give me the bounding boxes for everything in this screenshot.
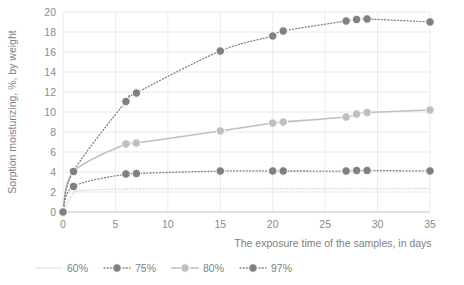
x-tick-label: 0 <box>60 218 66 230</box>
data-point <box>363 166 371 174</box>
x-tick-label: 10 <box>162 218 174 230</box>
data-point <box>122 170 130 178</box>
x-tick-label: 30 <box>372 218 384 230</box>
data-point <box>269 32 277 40</box>
data-point <box>342 17 350 25</box>
chart-container: 02468101214161820 05101520253035 Sorptio… <box>0 0 464 285</box>
legend-label: 80% <box>203 262 224 274</box>
data-point <box>426 18 434 26</box>
y-tick-label: 14 <box>44 66 56 78</box>
legend-item-80pct[interactable]: 80% <box>172 262 224 274</box>
data-point <box>122 140 130 148</box>
legend-label: 97% <box>271 262 292 274</box>
series-line-97pct <box>63 19 430 212</box>
y-tick-label: 16 <box>44 46 56 58</box>
data-point <box>132 169 140 177</box>
data-point <box>132 89 140 97</box>
y-tick-label: 4 <box>50 166 56 178</box>
legend-item-75pct[interactable]: 75% <box>104 262 156 274</box>
x-tick-label: 20 <box>267 218 279 230</box>
x-axis-tick-labels: 05101520253035 <box>60 218 436 230</box>
legend-marker-swatch <box>113 264 121 272</box>
data-point <box>363 15 371 23</box>
x-tick-label: 35 <box>424 218 436 230</box>
data-point <box>426 106 434 114</box>
data-point <box>69 182 77 190</box>
legend-marker-swatch <box>181 264 189 272</box>
y-tick-label: 20 <box>44 6 56 18</box>
x-tick-label: 5 <box>113 218 119 230</box>
data-point <box>132 139 140 147</box>
data-point <box>352 15 360 23</box>
x-tick-label: 15 <box>214 218 226 230</box>
data-point <box>279 167 287 175</box>
legend-item-60pct[interactable]: 60% <box>36 262 88 274</box>
data-point <box>216 127 224 135</box>
series-lines <box>63 19 430 212</box>
data-point <box>363 108 371 116</box>
data-point <box>216 167 224 175</box>
data-point <box>122 97 130 105</box>
data-point <box>216 47 224 55</box>
data-point <box>352 110 360 118</box>
y-tick-label: 12 <box>44 86 56 98</box>
y-tick-label: 10 <box>44 106 56 118</box>
y-axis-title: Sorption moisturizing, %, by weight <box>6 30 18 193</box>
data-point <box>279 118 287 126</box>
data-point <box>269 119 277 127</box>
sorption-moisturizing-chart: 02468101214161820 05101520253035 Sorptio… <box>0 0 464 285</box>
series-line-75pct <box>63 170 430 212</box>
data-point <box>352 166 360 174</box>
data-point <box>426 167 434 175</box>
chart-legend: 60%75%80%97% <box>36 262 292 274</box>
y-tick-label: 18 <box>44 26 56 38</box>
data-point <box>69 167 77 175</box>
series-line-80pct <box>63 110 430 212</box>
data-point <box>342 167 350 175</box>
data-point <box>59 208 67 216</box>
x-axis-title: The exposure time of the samples, in day… <box>234 237 431 249</box>
data-point <box>279 27 287 35</box>
legend-marker-swatch <box>249 264 257 272</box>
legend-item-97pct[interactable]: 97% <box>240 262 292 274</box>
data-point <box>269 167 277 175</box>
y-tick-label: 8 <box>50 126 56 138</box>
legend-label: 75% <box>135 262 156 274</box>
y-tick-label: 6 <box>50 146 56 158</box>
y-tick-label: 2 <box>50 186 56 198</box>
y-axis-tick-labels: 02468101214161820 <box>44 6 56 218</box>
data-point <box>342 113 350 121</box>
y-tick-label: 0 <box>50 206 56 218</box>
x-tick-label: 25 <box>319 218 331 230</box>
legend-label: 60% <box>67 262 88 274</box>
